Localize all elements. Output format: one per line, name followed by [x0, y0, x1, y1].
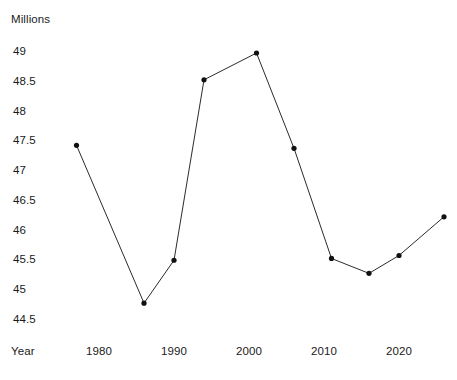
data-point — [366, 271, 371, 276]
plot-area — [0, 0, 457, 380]
data-point — [171, 258, 176, 263]
x-axis-tick-label: 2000 — [227, 345, 271, 357]
data-point — [329, 256, 334, 261]
x-axis-tick-label: 2010 — [302, 345, 346, 357]
x-axis-title: Year — [11, 345, 35, 357]
data-point — [74, 143, 79, 148]
data-point — [254, 50, 259, 55]
data-point — [291, 146, 296, 151]
series-markers — [74, 50, 447, 305]
data-point — [201, 77, 206, 82]
data-point — [441, 214, 446, 219]
data-point — [396, 253, 401, 258]
x-axis-tick-label: 1980 — [77, 345, 121, 357]
data-point — [141, 301, 146, 306]
x-axis-tick-label: 1990 — [152, 345, 196, 357]
x-axis-tick-label: 2020 — [377, 345, 421, 357]
series-line — [77, 53, 445, 303]
line-chart: Millions 4948.54847.54746.54645.54544.5 … — [0, 0, 457, 380]
